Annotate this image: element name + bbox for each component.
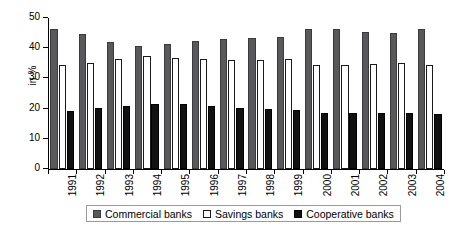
bar-commercial	[277, 37, 284, 169]
bar-savings	[370, 64, 377, 169]
bar-cooperative	[67, 111, 74, 169]
bar-group	[390, 18, 413, 169]
bar-group	[418, 18, 441, 169]
bar-group	[333, 18, 356, 169]
y-tick: 0	[43, 168, 48, 169]
bar-cooperative	[151, 104, 158, 169]
bar-savings	[285, 59, 292, 169]
bar-commercial	[107, 42, 114, 169]
y-tick: 30	[43, 77, 48, 78]
bar-commercial	[305, 29, 312, 169]
x-axis-label: 2003	[407, 174, 419, 214]
legend-label: Savings banks	[215, 208, 283, 220]
bar-group	[192, 18, 215, 169]
bar-commercial	[333, 29, 340, 169]
bar-group	[135, 18, 158, 169]
bar-savings	[228, 60, 235, 169]
legend-label: Commercial banks	[105, 208, 192, 220]
legend-item: Cooperative banks	[294, 208, 394, 220]
bar-cooperative	[321, 113, 328, 169]
bar-commercial	[220, 39, 227, 169]
bar-cooperative	[236, 108, 243, 169]
bar-cooperative	[180, 104, 187, 169]
bar-chart: in % 01020304050 19911992199319941995199…	[0, 0, 451, 232]
bar-commercial	[164, 44, 171, 169]
x-axis-label: 2004	[435, 174, 447, 214]
x-axis-label: 1991	[67, 174, 79, 214]
y-tick-label: 20	[29, 101, 40, 114]
y-tick: 40	[43, 47, 48, 48]
plot-area: 01020304050	[48, 18, 444, 170]
y-tick: 20	[43, 108, 48, 109]
bar-cooperative	[293, 110, 300, 169]
legend-swatch-cooperative	[294, 210, 302, 218]
bar-savings	[200, 59, 207, 169]
y-tick-label: 40	[29, 40, 40, 53]
bar-savings	[172, 58, 179, 169]
bar-cooperative	[378, 113, 385, 169]
y-tick-label: 10	[29, 131, 40, 144]
legend-item: Commercial banks	[93, 208, 192, 220]
bar-cooperative	[265, 109, 272, 169]
y-tick-label: 0	[34, 161, 40, 174]
bar-savings	[257, 60, 264, 169]
bar-cooperative	[123, 106, 130, 169]
bar-group	[362, 18, 385, 169]
legend-item: Savings banks	[203, 208, 283, 220]
bar-commercial	[135, 46, 142, 169]
y-tick-label: 50	[29, 10, 40, 23]
y-tick: 50	[43, 17, 48, 18]
bar-group	[220, 18, 243, 169]
bar-savings	[115, 59, 122, 169]
bar-commercial	[390, 33, 397, 169]
bar-group	[164, 18, 187, 169]
bar-savings	[398, 63, 405, 169]
bar-commercial	[418, 29, 425, 169]
bar-group	[277, 18, 300, 169]
y-axis-line	[48, 18, 49, 170]
bar-savings	[87, 63, 94, 169]
bar-savings	[143, 56, 150, 169]
bar-savings	[313, 65, 320, 169]
bar-commercial	[79, 34, 86, 169]
bar-savings	[59, 65, 66, 169]
bar-commercial	[50, 29, 57, 169]
legend-label: Cooperative banks	[306, 208, 394, 220]
x-tick	[48, 170, 49, 174]
bar-cooperative	[406, 113, 413, 169]
y-tick: 10	[43, 138, 48, 139]
bar-savings	[341, 65, 348, 169]
bar-group	[248, 18, 271, 169]
bar-commercial	[192, 41, 199, 169]
legend-swatch-commercial	[93, 210, 101, 218]
bar-group	[50, 18, 73, 169]
bar-group	[107, 18, 130, 169]
legend-swatch-savings	[203, 210, 211, 218]
bar-commercial	[362, 32, 369, 169]
bar-cooperative	[95, 108, 102, 169]
bar-savings	[426, 65, 433, 169]
bar-group	[79, 18, 102, 169]
bar-cooperative	[434, 114, 441, 169]
chart-legend: Commercial banksSavings banksCooperative…	[86, 205, 401, 222]
y-tick-label: 30	[29, 70, 40, 83]
bar-commercial	[248, 38, 255, 169]
bar-group	[305, 18, 328, 169]
bar-cooperative	[349, 113, 356, 169]
bar-cooperative	[208, 106, 215, 169]
